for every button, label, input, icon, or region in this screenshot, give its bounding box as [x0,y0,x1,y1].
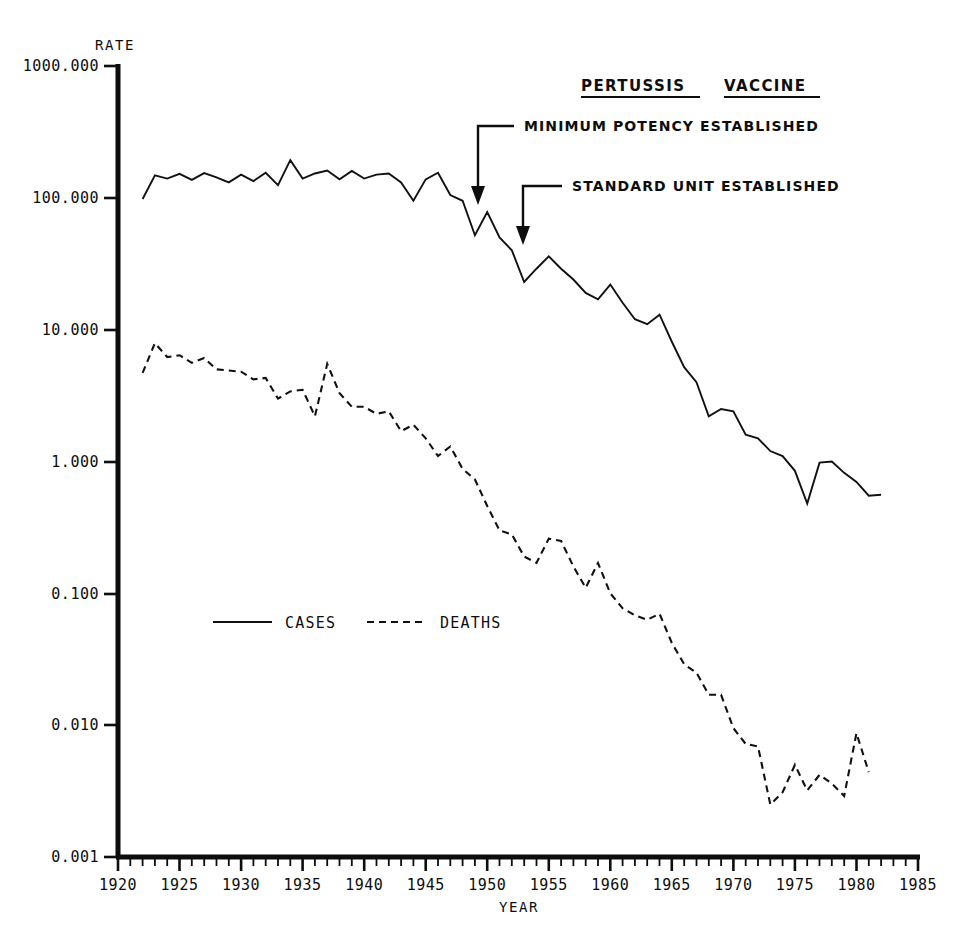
x-tick-label-1955: 1955 [530,876,568,894]
legend-label-cases: CASES [285,614,336,632]
x-axis-ticks [118,859,918,871]
x-tick-label-1970: 1970 [714,876,752,894]
chart-title-word-2: VACCINE [724,77,806,95]
annotation-arrowhead-minimum-potency [471,186,485,205]
series-line-cases [143,160,881,503]
x-tick-label-1925: 1925 [160,876,198,894]
annotation-leader-minimum-potency [478,126,514,190]
y-tick-label-1000: 1000.000 [23,57,99,75]
annotation-leader-standard-unit [523,186,562,229]
legend-label-deaths: DEATHS [440,614,501,632]
x-tick-label-1920: 1920 [99,876,137,894]
x-axis-tick-labels: 1920192519301935194019451950195519601965… [99,876,937,894]
annotation-label-standard-unit: STANDARD UNIT ESTABLISHED [572,178,840,194]
x-tick-label-1975: 1975 [776,876,814,894]
y-tick-label-0-100: 0.100 [51,585,99,603]
x-tick-label-1930: 1930 [222,876,260,894]
y-tick-label-1: 1.000 [51,453,99,471]
x-tick-label-1945: 1945 [407,876,445,894]
annotation-arrowhead-standard-unit [516,226,530,245]
x-tick-label-1980: 1980 [837,876,875,894]
annotation-label-minimum-potency: MINIMUM POTENCY ESTABLISHED [524,118,819,134]
x-tick-label-1935: 1935 [284,876,322,894]
x-axis-title: YEAR [499,899,539,915]
chart-title-word-1: PERTUSSIS [581,77,685,95]
pertussis-vaccine-chart: 1000.000 100.000 10.000 1.000 0.100 0.01… [0,0,978,944]
chart-page: 1000.000 100.000 10.000 1.000 0.100 0.01… [0,0,978,944]
x-tick-label-1960: 1960 [591,876,629,894]
legend: CASES DEATHS [213,614,501,632]
x-tick-label-1950: 1950 [468,876,506,894]
y-tick-label-100: 100.000 [32,189,99,207]
y-tick-label-10: 10.000 [42,321,99,339]
y-tick-label-0-001: 0.001 [51,848,99,866]
series-line-deaths [143,343,869,804]
x-tick-label-1965: 1965 [653,876,691,894]
y-axis-title: RATE [95,37,135,53]
x-tick-label-1985: 1985 [899,876,937,894]
x-tick-label-1940: 1940 [345,876,383,894]
y-tick-label-0-010: 0.010 [51,716,99,734]
